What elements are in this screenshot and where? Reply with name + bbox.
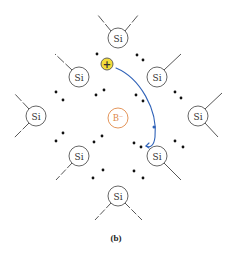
svg-text:B⁻: B⁻ (113, 113, 124, 123)
svg-text:Si: Si (152, 73, 161, 83)
silicon-atom-upper-left: Si (69, 67, 89, 87)
silicon-atom-top: Si (108, 28, 128, 48)
boron-ion: B⁻ (108, 108, 128, 128)
svg-text:Si: Si (74, 152, 83, 162)
svg-text:Si: Si (152, 152, 161, 162)
silicon-atom-upper-right: Si (147, 67, 167, 87)
hole-positive-charge: + (101, 58, 113, 70)
silicon-atom-lower-right: Si (147, 146, 167, 166)
svg-text:Si: Si (31, 112, 40, 122)
boron-doped-silicon-lattice-diagram: Si Si Si Si Si Si Si Si B⁻ + (0, 0, 232, 253)
svg-text:Si: Si (113, 34, 122, 44)
silicon-atom-left: Si (26, 106, 46, 126)
silicon-atom-right: Si (188, 106, 208, 126)
svg-text:Si: Si (74, 73, 83, 83)
svg-text:Si: Si (193, 112, 202, 122)
svg-text:Si: Si (113, 192, 122, 202)
svg-text:+: + (103, 59, 111, 70)
silicon-atom-bottom: Si (108, 186, 128, 206)
figure-caption: (b) (111, 233, 122, 243)
silicon-atom-lower-left: Si (69, 146, 89, 166)
